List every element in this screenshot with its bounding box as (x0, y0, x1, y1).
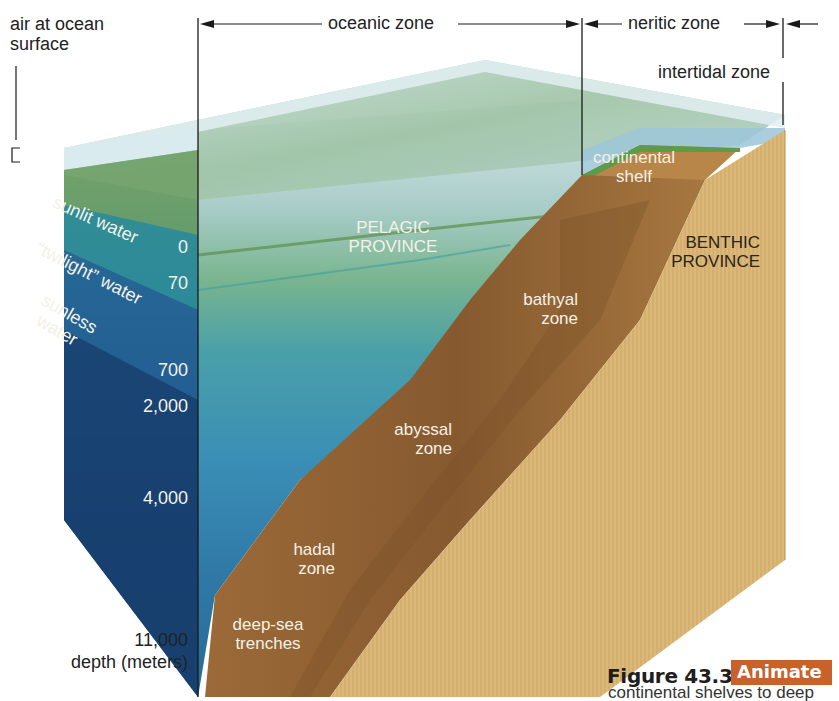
bathyal-line1: bathyal (480, 290, 578, 309)
depth-tick-70: 70 (140, 273, 188, 293)
depth-tick-2000: 2,000 (120, 396, 188, 416)
depth-tick-11000: 11,000 (100, 630, 188, 650)
bathyal-zone-label: bathyal zone (480, 290, 578, 328)
ocean-zones-diagram: air at ocean surface oceanic zone neriti… (0, 0, 839, 701)
hadal-line1: hadal (255, 540, 335, 559)
ocean-block-illustration (0, 0, 839, 701)
continental-line1: continental (584, 148, 684, 167)
abyssal-line1: abyssal (360, 420, 452, 439)
benthic-province-label: BENTHIC PROVINCE (650, 233, 760, 271)
benthic-line2: PROVINCE (650, 252, 760, 271)
pelagic-province-label: PELAGIC PROVINCE (338, 218, 448, 256)
pelagic-line1: PELAGIC (338, 218, 448, 237)
continental-line2: shelf (584, 167, 684, 186)
figure-caption: continental shelves to deep (608, 683, 814, 701)
abyssal-zone-label: abyssal zone (360, 420, 452, 458)
bathyal-line2: zone (480, 309, 578, 328)
neritic-zone-label: neritic zone (628, 13, 720, 33)
animate-badge[interactable]: Animate (731, 660, 832, 685)
hadal-line2: zone (255, 559, 335, 578)
benthic-line1: BENTHIC (650, 233, 760, 252)
air-surface-line1: air at ocean (10, 14, 104, 34)
depth-tick-0: 0 (140, 237, 188, 257)
deep-sea-trenches-label: deep-sea trenches (218, 615, 318, 653)
depth-tick-4000: 4,000 (120, 488, 188, 508)
oceanic-zone-label: oceanic zone (328, 13, 434, 33)
depth-axis-label: depth (meters) (30, 652, 188, 672)
trenches-line2: trenches (218, 634, 318, 653)
air-surface-line2: surface (10, 34, 104, 54)
depth-tick-700: 700 (140, 360, 188, 380)
air-at-ocean-surface-label: air at ocean surface (10, 14, 104, 54)
trenches-line1: deep-sea (218, 615, 318, 634)
abyssal-line2: zone (360, 439, 452, 458)
intertidal-zone-label: intertidal zone (658, 62, 770, 82)
pelagic-line2: PROVINCE (338, 237, 448, 256)
hadal-zone-label: hadal zone (255, 540, 335, 578)
continental-shelf-label: continental shelf (584, 148, 684, 186)
